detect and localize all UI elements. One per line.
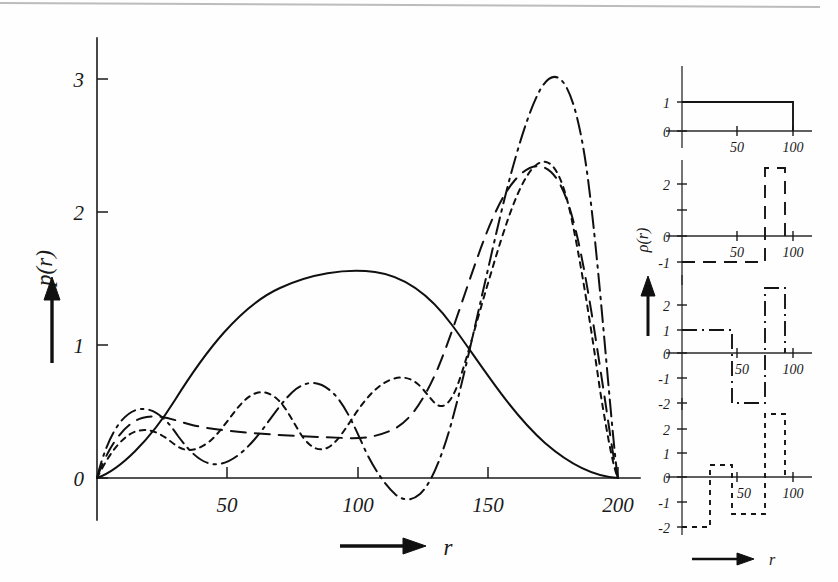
figure-canvas: 0 1 2 3 50 100 150 200 p(r) r [0,0,838,582]
inset3-x-label-100: 100 [783,362,804,377]
inset2-y-label-0: 0 [663,230,670,245]
main-y-label-3: 3 [73,68,85,92]
main-x-axis-label: r [444,535,454,560]
inset-r-axis-arrow [692,553,754,565]
inset2-x-label-50: 50 [730,245,744,260]
inset1-y-label-0: 0 [663,125,670,140]
inset3-x-label-50: 50 [735,362,749,377]
scan-edge-line [0,3,820,7]
figure-svg: 0 1 2 3 50 100 150 200 p(r) r [0,0,838,582]
inset-panel-1: 0 1 50 100 [663,66,812,155]
inset1-x-label-50: 50 [730,140,744,155]
inset3-y-label-neg2: -2 [658,397,670,412]
main-y-label-2: 2 [74,201,85,225]
main-x-label-150: 150 [472,493,504,517]
inset4-y-label-1: 1 [663,447,670,462]
inset-panel-2: 0 2 -1 50 100 [658,160,812,285]
main-y-label-1: 1 [74,334,85,358]
main-plot: 0 1 2 3 50 100 150 200 p(r) r [32,38,640,560]
curve-solid [97,271,618,478]
main-x-label-100: 100 [342,493,374,517]
p-axis-arrow [44,277,60,363]
inset3-y-label-neg1: -1 [658,372,670,387]
inset3-y-label-2: 2 [663,299,670,314]
main-x-label-200: 200 [602,493,634,517]
inset2-x-label-100: 100 [783,245,804,260]
curve-dash-dot [97,77,618,499]
r-axis-arrow [340,538,426,554]
rho-axis-arrow [641,276,655,336]
inset3-step-profile [682,288,785,403]
inset4-x-label-100: 100 [783,486,804,501]
inset-panel-4: 0 1 2 -1 -2 50 100 r [658,398,812,568]
inset4-step-profile [682,414,785,527]
inset4-y-label-neg2: -2 [658,521,670,536]
inset1-x-label-100: 100 [783,140,804,155]
inset4-y-label-2: 2 [663,423,670,438]
main-y-label-0: 0 [74,467,85,491]
inset2-y-label-neg1: -1 [658,256,670,271]
inset4-x-label-50: 50 [737,486,751,501]
inset3-y-label-1: 1 [663,324,670,339]
inset-y-axis-label: ρ(r) [634,228,652,254]
inset-panel-3: 0 1 2 -1 -2 50 100 [658,275,812,412]
inset1-y-label-1: 1 [663,96,670,111]
inset4-y-label-neg1: -1 [658,496,670,511]
main-x-label-50: 50 [217,493,239,517]
inset3-y-label-0: 0 [663,347,670,362]
inset2-y-label-2: 2 [663,178,670,193]
inset-x-axis-label: r [769,551,776,568]
inset4-y-label-0: 0 [663,471,670,486]
